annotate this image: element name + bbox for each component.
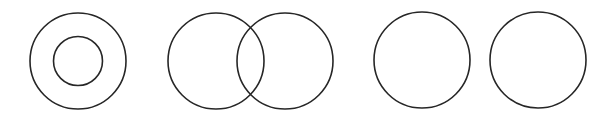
right-overlapping-circle xyxy=(237,13,333,109)
outer-circle xyxy=(30,13,126,109)
concentric-circles-group xyxy=(30,13,126,109)
circle-relations-diagram xyxy=(0,0,615,119)
inner-circle xyxy=(54,37,103,86)
right-disjoint-circle xyxy=(490,12,586,108)
left-disjoint-circle xyxy=(374,12,470,108)
diagram-canvas xyxy=(0,0,615,119)
disjoint-circles-group xyxy=(374,12,586,108)
overlapping-circles-group xyxy=(168,13,333,109)
left-overlapping-circle xyxy=(168,13,264,109)
